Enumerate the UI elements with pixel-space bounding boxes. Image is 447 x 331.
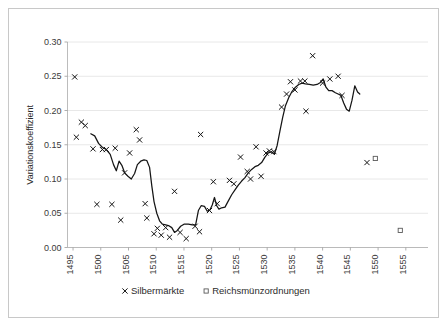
- x-tick-label-1545: 1545: [342, 255, 352, 275]
- x-tick-label-1515: 1515: [176, 255, 186, 275]
- data-point-silbermaerkte: [298, 78, 303, 83]
- data-point-silbermaerkte: [284, 91, 289, 96]
- data-point-silbermaerkte: [159, 233, 164, 238]
- data-point-silbermaerkte: [211, 179, 216, 184]
- x-tick-label-1550: 1550: [370, 255, 380, 275]
- data-point-silbermaerkte: [327, 76, 332, 81]
- data-point-silbermaerkte: [143, 201, 148, 206]
- y-tick-label-0.15: 0.15: [44, 140, 62, 150]
- moving-average-line: [91, 79, 360, 232]
- legend-marker-square-icon: [204, 289, 208, 293]
- data-point-reichsmuenzordnungen: [373, 156, 377, 160]
- data-point-silbermaerkte: [227, 178, 232, 183]
- x-tick-label-1530: 1530: [259, 255, 269, 275]
- legend-label-2: Reichsmünzordnungen: [212, 285, 310, 296]
- x-tick-label-1525: 1525: [231, 255, 241, 275]
- data-point-silbermaerkte: [310, 53, 315, 58]
- data-point-silbermaerkte: [134, 127, 139, 132]
- x-tick-label-1555: 1555: [398, 255, 408, 275]
- data-point-silbermaerkte: [118, 218, 123, 223]
- data-point-silbermaerkte: [113, 146, 118, 151]
- x-tick-label-1520: 1520: [204, 255, 214, 275]
- x-tick-label-1540: 1540: [315, 255, 325, 275]
- data-point-silbermaerkte: [104, 147, 109, 152]
- data-point-silbermaerkte: [155, 226, 160, 231]
- legend-marker-x-icon: [122, 288, 127, 293]
- data-point-silbermaerkte: [198, 132, 203, 137]
- data-point-silbermaerkte: [197, 229, 202, 234]
- gridlines: [68, 42, 429, 248]
- data-point-silbermaerkte: [177, 230, 182, 235]
- data-point-silbermaerkte: [172, 189, 177, 194]
- y-axis-title: Variationskoeffizient: [25, 104, 35, 184]
- data-point-silbermaerkte: [144, 215, 149, 220]
- reichsmuenzordnungen-markers: [373, 156, 402, 232]
- data-point-silbermaerkte: [72, 74, 77, 79]
- y-axis-title-text: Variationskoeffizient: [25, 104, 35, 184]
- y-tick-label-0.10: 0.10: [44, 174, 62, 184]
- data-point-silbermaerkte: [364, 160, 369, 165]
- data-point-reichsmuenzordnungen: [398, 228, 402, 232]
- legend-label-1: Silbermärkte: [131, 285, 184, 296]
- x-tick-label-1510: 1510: [148, 255, 158, 275]
- data-point-silbermaerkte: [74, 135, 79, 140]
- data-point-silbermaerkte: [90, 146, 95, 151]
- y-tick-label-0.30: 0.30: [44, 37, 62, 47]
- x-axis-tick-labels: 1495150015051510151515201525153015351540…: [65, 255, 408, 275]
- chart-legend: SilbermärkteReichsmünzordnungen: [122, 285, 310, 296]
- data-point-silbermaerkte: [184, 236, 189, 241]
- data-point-silbermaerkte: [231, 181, 236, 186]
- data-point-silbermaerkte: [258, 174, 263, 179]
- y-tick-label-0.05: 0.05: [44, 208, 62, 218]
- data-point-silbermaerkte: [288, 79, 293, 84]
- series-line-path: [91, 79, 360, 232]
- x-tick-label-1505: 1505: [121, 255, 131, 275]
- y-tick-label-0.20: 0.20: [44, 106, 62, 116]
- data-point-silbermaerkte: [94, 202, 99, 207]
- data-point-silbermaerkte: [83, 123, 88, 128]
- data-point-silbermaerkte: [302, 78, 307, 83]
- data-point-silbermaerkte: [109, 202, 114, 207]
- data-point-silbermaerkte: [238, 154, 243, 159]
- data-point-silbermaerkte: [151, 231, 156, 236]
- data-point-silbermaerkte: [122, 170, 127, 175]
- y-tick-label-0.25: 0.25: [44, 71, 62, 81]
- data-point-silbermaerkte: [127, 150, 132, 155]
- data-point-silbermaerkte: [167, 235, 172, 240]
- data-point-silbermaerkte: [279, 104, 284, 109]
- chart-figure: 0.000.050.100.150.200.250.30 14951500150…: [0, 0, 447, 331]
- tick-marks: [65, 42, 406, 251]
- y-tick-label-0.00: 0.00: [44, 243, 62, 253]
- data-point-silbermaerkte: [163, 225, 168, 230]
- y-axis-tick-labels: 0.000.050.100.150.200.250.30: [44, 37, 62, 253]
- chart-canvas: 0.000.050.100.150.200.250.30 14951500150…: [0, 0, 447, 331]
- x-tick-label-1535: 1535: [287, 255, 297, 275]
- data-point-silbermaerkte: [137, 137, 142, 142]
- x-tick-label-1495: 1495: [65, 255, 75, 275]
- data-point-silbermaerkte: [303, 109, 308, 114]
- x-tick-label-1500: 1500: [93, 255, 103, 275]
